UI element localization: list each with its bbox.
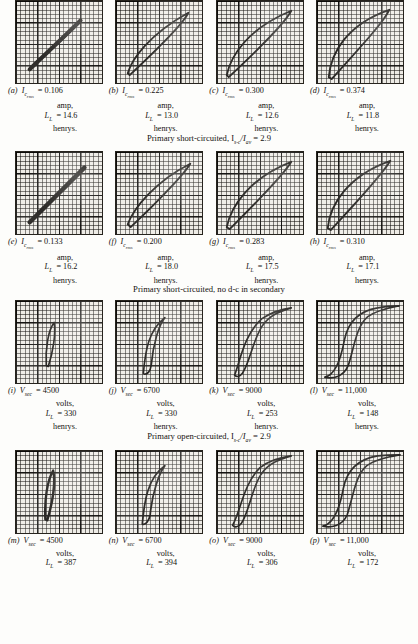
value: 9000 [245, 386, 261, 395]
panel-letter: (k) [209, 386, 218, 395]
figure-row-4: (m) Vsec = 4500 volts, LL = 387 (n) Vsec… [0, 450, 418, 572]
equals-sign: = [259, 409, 264, 418]
equals-sign: = [37, 237, 42, 246]
caption-strip-2: (e) Icrms = 0.133 amp, LL = 16.2 henrys.… [0, 235, 418, 285]
inductance-value: 11.8 [365, 111, 379, 120]
inductance-sub: L [351, 267, 354, 273]
unit: amp, [8, 101, 108, 111]
oscillogram-n [115, 450, 203, 534]
quantity-sub2: rms [329, 245, 336, 250]
panel-letter: (e) [8, 237, 17, 246]
film-noise [116, 301, 202, 383]
equals-sign: = [239, 386, 244, 395]
unit: volts, [109, 399, 209, 409]
oscillogram-h [316, 151, 404, 235]
film-noise [217, 152, 303, 234]
value: 0.283 [246, 237, 264, 246]
figure-row-3: (i) Vsec = 4500 volts, LL = 330 henrys. … [0, 300, 418, 444]
inductance-sub: L [351, 116, 354, 122]
inductance-unit: henrys. [109, 422, 209, 432]
inductance-sub: L [151, 414, 154, 420]
equals-sign: = [57, 558, 62, 567]
oscillogram-o [216, 450, 304, 534]
condition-text: Primary short-circuited, no d-c in secon… [133, 284, 285, 294]
value: 6700 [143, 386, 159, 395]
film-noise [116, 152, 202, 234]
inductance-sub: L [150, 116, 153, 122]
inductance-value: 306 [265, 558, 277, 567]
oscillogram-i [15, 300, 103, 384]
film-noise [317, 451, 403, 533]
row-condition-1: Primary short-circuited, Is-c/Iav = 2.9 [0, 133, 418, 147]
panel-letter: (d) [310, 86, 320, 95]
inductance-unit: henrys. [310, 124, 410, 134]
condition-text: Primary open-circuited, I [147, 431, 234, 441]
inductance-value: 172 [366, 558, 378, 567]
equals-sign: = [340, 86, 345, 95]
equals-sign: = [56, 111, 61, 120]
caption-o: (o) Vsec = 9000 volts, LL = 306 [209, 536, 309, 572]
panel-letter: (j) [109, 386, 117, 395]
unit: amp, [209, 253, 309, 263]
inductance-sub: L [352, 414, 355, 420]
equals-sign: = [340, 237, 345, 246]
figure-row-2: (e) Icrms = 0.133 amp, LL = 16.2 henrys.… [0, 151, 418, 294]
caption-g: (g) Icrms = 0.283 amp, LL = 17.5 henrys. [209, 237, 309, 285]
inductance-value: 148 [366, 409, 378, 418]
panel-letter: (h) [310, 237, 320, 246]
inductance-value: 14.6 [63, 111, 77, 120]
inductance-sub: L [352, 563, 355, 569]
inductance-value: 253 [265, 409, 277, 418]
value: 0.106 [45, 86, 63, 95]
inductance-sub: L [50, 414, 53, 420]
inductance-unit: henrys. [209, 124, 309, 134]
inductance-unit: henrys. [8, 124, 108, 134]
film-noise [16, 451, 102, 533]
oscillogram-j [115, 300, 203, 384]
value: 0.200 [143, 237, 161, 246]
quantity-sub: sec [127, 540, 134, 546]
equals-sign: = [359, 558, 364, 567]
quantity-sub2: rms [26, 245, 33, 250]
oscillogram-b [115, 0, 203, 84]
equals-sign: = [239, 237, 244, 246]
inductance-value: 16.2 [63, 262, 77, 271]
film-noise [317, 1, 403, 83]
equals-sign: = [38, 86, 43, 95]
unit: volts, [310, 399, 410, 409]
scope-strip-3 [0, 300, 418, 384]
unit: volts, [209, 399, 309, 409]
quantity-sub: sec [228, 391, 235, 397]
caption-strip-4: (m) Vsec = 4500 volts, LL = 387 (n) Vsec… [0, 534, 418, 572]
value: 0.310 [347, 237, 365, 246]
caption-strip-1: (a) Icrms = 0.106 amp, LL = 14.6 henrys.… [0, 84, 418, 134]
film-noise [317, 152, 403, 234]
oscillogram-f [115, 151, 203, 235]
equals-sign: = [239, 86, 244, 95]
value: 0.133 [44, 237, 62, 246]
inductance-unit: henrys. [209, 422, 309, 432]
inductance-sub: L [250, 116, 253, 122]
oscillogram-c [216, 0, 304, 84]
unit: amp, [310, 101, 410, 111]
film-noise [16, 1, 102, 83]
equals-sign: = [258, 262, 263, 271]
unit: volts, [209, 549, 309, 559]
equals-sign: = [359, 409, 364, 418]
quantity-sub: sec [28, 540, 35, 546]
equals-sign: = [157, 111, 162, 120]
inductance-unit: henrys. [209, 276, 309, 286]
inductance-unit: henrys. [8, 276, 108, 286]
panel-letter: (a) [8, 86, 18, 95]
film-noise [217, 301, 303, 383]
film-noise [317, 301, 403, 383]
oscillogram-d [316, 0, 404, 84]
inductance-value: 330 [64, 409, 76, 418]
quantity-sub: sec [329, 540, 336, 546]
film-noise [116, 451, 202, 533]
inductance-value: 12.6 [264, 111, 278, 120]
quantity-sub: sec [327, 391, 334, 397]
caption-p: (p) Vsec = 11,000 volts, LL = 172 [310, 536, 410, 572]
equals-sign: = [358, 262, 363, 271]
oscillogram-p [316, 450, 404, 534]
